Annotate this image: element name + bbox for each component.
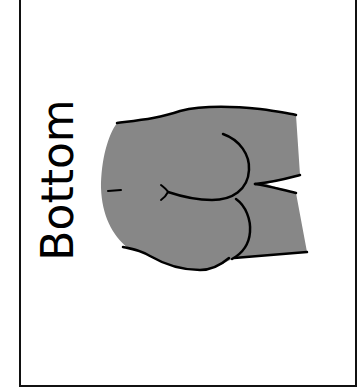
dimple-mark [108,190,121,191]
buttocks-icon [0,0,359,388]
